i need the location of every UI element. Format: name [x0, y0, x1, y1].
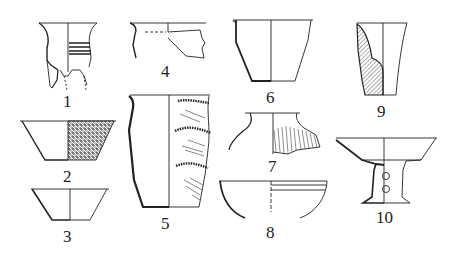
vessel-7-drawing: [229, 113, 320, 154]
vessel-5-drawing: [129, 95, 211, 207]
figure-number-5: 5: [161, 215, 170, 232]
vessel-9-drawing: [357, 23, 407, 95]
figure-number-1: 1: [63, 93, 72, 110]
vessel-6-drawing: [233, 20, 313, 81]
figure-number-2: 2: [63, 168, 72, 185]
figure-number-10: 10: [376, 209, 393, 226]
figure-number-4: 4: [161, 63, 170, 80]
figure-number-8: 8: [266, 224, 275, 241]
figure-number-7: 7: [268, 158, 277, 175]
vessel-8-drawing: [219, 181, 327, 218]
vessel-2-drawing: [20, 121, 116, 160]
vessel-4-drawing: [130, 23, 206, 58]
vessel-3-drawing: [31, 189, 109, 220]
vessel-1-drawing: [39, 23, 97, 90]
figure-number-9: 9: [377, 103, 386, 120]
vessel-10-drawing: [336, 138, 437, 203]
figure-number-3: 3: [63, 228, 72, 245]
figure-number-6: 6: [266, 89, 275, 106]
